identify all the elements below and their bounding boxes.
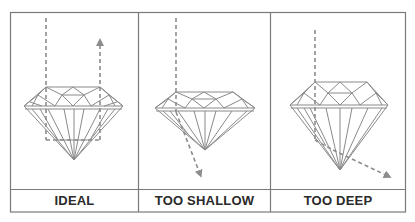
figure-graphics [0, 0, 415, 222]
diamond-ideal [24, 87, 123, 160]
diamond-cut-comparison-figure: IDEAL TOO SHALLOW TOO DEEP [0, 0, 415, 222]
diamond-too-deep [290, 82, 388, 170]
label-too-deep: TOO DEEP [271, 190, 405, 212]
label-ideal: IDEAL [11, 190, 138, 212]
diamond-too-shallow [155, 92, 255, 150]
frame [10, 12, 406, 212]
label-too-shallow: TOO SHALLOW [139, 190, 270, 212]
